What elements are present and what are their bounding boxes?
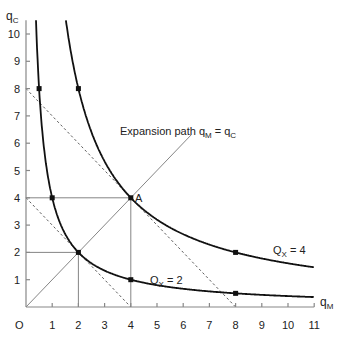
- y-tick-label: 2: [14, 246, 20, 258]
- isoquant-chart: 123456789101112345678910 qC qM O Expansi…: [0, 0, 339, 338]
- x-tick-label: 8: [233, 319, 239, 331]
- axes: [26, 20, 314, 307]
- x-tick-label: 7: [206, 319, 212, 331]
- data-point-marker: [50, 195, 55, 200]
- point-a-label: A: [135, 192, 143, 204]
- x-tick-label: 6: [180, 319, 186, 331]
- data-point-marker: [233, 291, 238, 296]
- y-tick-label: 6: [14, 137, 20, 149]
- y-tick-label: 1: [14, 274, 20, 286]
- y-tick-label: 8: [14, 83, 20, 95]
- x-tick-label: 10: [282, 319, 294, 331]
- data-point-marker: [76, 250, 81, 255]
- data-point-marker: [76, 86, 81, 91]
- x-axis-label: qM: [320, 295, 334, 311]
- y-tick-label: 10: [8, 28, 20, 40]
- x-tick-label: 11: [308, 319, 319, 331]
- data-point-marker: [37, 86, 42, 91]
- data-point-marker: [128, 195, 133, 200]
- y-tick-label: 9: [14, 55, 20, 67]
- x-tick-label: 5: [154, 319, 160, 331]
- y-tick-label: 5: [14, 165, 20, 177]
- data-point-marker: [233, 250, 238, 255]
- y-tick-label: 4: [14, 192, 20, 204]
- y-tick-label: 7: [14, 110, 20, 122]
- isoquant-qx4: [66, 20, 314, 267]
- x-tick-label: 1: [49, 319, 55, 331]
- x-tick-label: 4: [128, 319, 134, 331]
- y-axis-label: qC: [6, 9, 19, 25]
- data-point-marker: [128, 277, 133, 282]
- x-tick-label: 3: [102, 319, 108, 331]
- y-tick-label: 3: [14, 219, 20, 231]
- expansion-path-label: Expansion path qM = qC: [120, 125, 236, 140]
- qx4-label: QX = 4: [273, 244, 306, 259]
- x-tick-label: 2: [75, 319, 81, 331]
- x-tick-label: 9: [259, 319, 265, 331]
- origin-label: O: [15, 319, 24, 331]
